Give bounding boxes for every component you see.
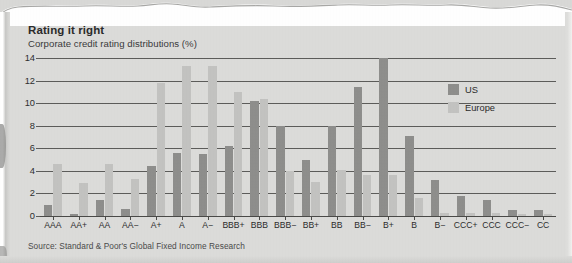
- bar-us-AAA: [44, 205, 52, 216]
- bar-group: [44, 58, 62, 216]
- bar-europe-A: [182, 66, 190, 216]
- paper-bottom-edge: [0, 256, 572, 263]
- bar-us-BBB+: [225, 146, 233, 216]
- legend-swatch-us-icon: [448, 84, 459, 95]
- gridline-8: [40, 126, 556, 127]
- bar-chart-plot-area: 02468101214 AAAAA+AAAA−A+AA−BBB+BBBBBB−B…: [40, 58, 556, 216]
- x-tick-label: B+: [383, 220, 394, 230]
- x-tick-label: B−: [435, 220, 446, 230]
- bar-europe-BB+: [311, 182, 319, 216]
- bar-europe-BBB: [260, 99, 268, 216]
- bar-us-B+: [379, 58, 387, 216]
- bar-europe-BBB+: [234, 92, 242, 216]
- x-tick-label: AAA: [44, 220, 61, 230]
- x-tick-label: CCC: [482, 220, 501, 230]
- y-tick-label-14: 14: [25, 53, 35, 63]
- x-tick-label: AA−: [122, 220, 138, 230]
- bar-us-A+: [147, 166, 155, 216]
- bar-europe-AAA: [53, 164, 61, 216]
- bar-europe-AA+: [79, 183, 87, 216]
- source-note: Source: Standard & Poor's Global Fixed I…: [28, 241, 245, 251]
- y-tick-mark-6: [36, 148, 40, 149]
- scanned-page: Rating it right Corporate credit rating …: [0, 0, 572, 263]
- bar-group: [276, 58, 294, 216]
- bar-group: [379, 58, 397, 216]
- y-tick-label-0: 0: [30, 211, 35, 221]
- x-tick-label: BB+: [303, 220, 319, 230]
- legend-item-us: US: [448, 84, 495, 95]
- bar-europe-B: [415, 198, 423, 216]
- x-tick-label: CC: [537, 220, 549, 230]
- bar-group: [302, 58, 320, 216]
- legend-label-us: US: [465, 85, 478, 95]
- bar-group: [534, 58, 552, 216]
- bar-group: [225, 58, 243, 216]
- gridline-12: [40, 81, 556, 82]
- bar-group: [508, 58, 526, 216]
- bar-group: [173, 58, 191, 216]
- x-tick-label: A+: [151, 220, 162, 230]
- bar-group: [328, 58, 346, 216]
- x-axis-line: [40, 216, 556, 217]
- y-tick-label-4: 4: [30, 166, 35, 176]
- y-tick-mark-10: [36, 103, 40, 104]
- y-tick-mark-12: [36, 81, 40, 82]
- paper-right-edge: [565, 12, 572, 263]
- y-tick-label-10: 10: [25, 98, 35, 108]
- bar-europe-Am: [208, 66, 216, 216]
- bar-europe-BBBm: [286, 171, 294, 216]
- bar-group: [121, 58, 139, 216]
- bar-group: [147, 58, 165, 216]
- y-tick-mark-14: [36, 58, 40, 59]
- bar-us-BBBm: [276, 126, 284, 216]
- bar-us-AA: [96, 200, 104, 216]
- bar-group: [354, 58, 372, 216]
- gridline-2: [40, 193, 556, 194]
- legend-item-europe: Europe: [448, 102, 495, 113]
- bar-us-BB+: [302, 160, 310, 216]
- bar-group: [483, 58, 501, 216]
- x-tick-label: A−: [202, 220, 213, 230]
- x-tick-label: AA: [99, 220, 110, 230]
- x-tick-label: BBB: [251, 220, 268, 230]
- y-tick-label-2: 2: [30, 188, 35, 198]
- bar-group: [457, 58, 475, 216]
- y-tick-mark-4: [36, 171, 40, 172]
- gridline-6: [40, 148, 556, 149]
- bar-us-A: [173, 153, 181, 216]
- y-tick-mark-2: [36, 193, 40, 194]
- bar-us-CCC: [483, 200, 491, 216]
- bar-europe-BB: [337, 170, 345, 216]
- bar-group: [199, 58, 217, 216]
- gridline-4: [40, 171, 556, 172]
- bar-group: [405, 58, 423, 216]
- x-tick-label: BBB−: [274, 220, 296, 230]
- bar-europe-AA: [105, 164, 113, 216]
- bar-group: [96, 58, 114, 216]
- x-tick-label: CCC+: [454, 220, 478, 230]
- legend-label-europe: Europe: [465, 103, 495, 113]
- x-tick-label: CCC−: [505, 220, 529, 230]
- bar-europe-BBm: [363, 175, 371, 216]
- bar-us-BBm: [354, 87, 362, 216]
- x-tick-label: BB−: [354, 220, 370, 230]
- y-tick-mark-8: [36, 126, 40, 127]
- x-tick-label: A: [179, 220, 185, 230]
- x-tick-label: B: [411, 220, 417, 230]
- bar-group: [70, 58, 88, 216]
- chart-legend: US Europe: [448, 84, 495, 120]
- y-tick-label-8: 8: [30, 121, 35, 131]
- bar-europe-B+: [389, 175, 397, 216]
- torn-paper-top-edge: [0, 0, 572, 26]
- bar-us-CCC+: [457, 196, 465, 216]
- y-tick-label-6: 6: [30, 143, 35, 153]
- bar-us-Bm: [431, 180, 439, 216]
- bar-group: [250, 58, 268, 216]
- chart-subtitle: Corporate credit rating distributions (%…: [28, 38, 197, 49]
- bar-us-B: [405, 136, 413, 216]
- legend-swatch-europe-icon: [448, 102, 459, 113]
- bar-us-BBB: [250, 101, 258, 216]
- y-tick-label-12: 12: [25, 76, 35, 86]
- bar-us-AAm: [121, 209, 129, 216]
- x-tick-label: BBB+: [222, 220, 244, 230]
